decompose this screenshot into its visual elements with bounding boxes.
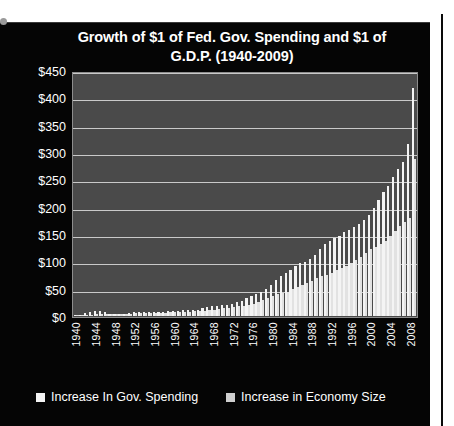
x-axis-tick-label: 1960 xyxy=(169,322,181,347)
y-axis-tick-label: $300 xyxy=(0,147,66,161)
legend-label: Increase in Economy Size xyxy=(241,390,386,404)
x-axis-tick-label: 1964 xyxy=(188,322,200,347)
plot-wrapper xyxy=(72,72,418,318)
y-axis-tick-label: $250 xyxy=(0,174,66,188)
corner-marker-icon xyxy=(0,18,7,25)
x-axis-tick-label: 1992 xyxy=(326,322,338,347)
x-axis-tick-label: 1988 xyxy=(306,322,318,347)
chart-legend: Increase In Gov. SpendingIncrease in Eco… xyxy=(36,390,416,404)
x-axis-tick-label: 1996 xyxy=(346,322,358,347)
y-axis-tick-label: $100 xyxy=(0,256,66,270)
legend-swatch-icon xyxy=(36,393,45,402)
x-axis-tick-label: 2008 xyxy=(405,322,417,347)
y-axis-tick-label: $450 xyxy=(0,65,66,79)
x-axis-tick-label: 1972 xyxy=(228,322,240,347)
bar-group xyxy=(411,74,416,316)
slide-top-hairline xyxy=(0,22,430,23)
bar-series-container xyxy=(74,74,416,316)
x-axis-tick-label: 1940 xyxy=(70,322,82,347)
x-axis-tick-label: 1984 xyxy=(287,322,299,347)
y-axis-tick-label: $50 xyxy=(0,284,66,298)
legend-item: Increase In Gov. Spending xyxy=(36,390,198,404)
chart-title-line-1: Growth of $1 of Fed. Gov. Spending and $… xyxy=(42,28,422,47)
y-axis: $450$400$350$300$250$200$150$100$50$0 xyxy=(0,72,66,318)
y-axis-tick-label: $350 xyxy=(0,120,66,134)
x-axis: 1940194419481952195619601964196819721976… xyxy=(73,322,417,370)
chart-title: Growth of $1 of Fed. Gov. Spending and $… xyxy=(42,28,422,66)
x-axis-tick-label: 1976 xyxy=(247,322,259,347)
plot-area xyxy=(72,72,418,318)
x-axis-tick-label: 1956 xyxy=(149,322,161,347)
legend-item: Increase in Economy Size xyxy=(226,390,386,404)
legend-swatch-icon xyxy=(226,393,235,402)
y-axis-tick-label: $150 xyxy=(0,229,66,243)
chart-title-line-2: G.D.P. (1940-2009) xyxy=(42,47,422,66)
x-axis-tick-label: 2000 xyxy=(365,322,377,347)
x-axis-tick-label: 1944 xyxy=(90,322,102,347)
y-axis-tick-label: $400 xyxy=(0,92,66,106)
x-axis-tick-label: 1948 xyxy=(110,322,122,347)
screenshot-root: Growth of $1 of Fed. Gov. Spending and $… xyxy=(0,0,454,426)
legend-label: Increase In Gov. Spending xyxy=(51,390,198,404)
bar-economy-size xyxy=(414,159,416,316)
x-axis-tick-label: 2004 xyxy=(385,322,397,347)
y-axis-tick-label: $0 xyxy=(0,311,66,325)
right-rule-divider xyxy=(441,14,443,426)
x-axis-tick-label: 1968 xyxy=(208,322,220,347)
x-axis-tick-label: 1952 xyxy=(129,322,141,347)
slide-panel: Growth of $1 of Fed. Gov. Spending and $… xyxy=(0,22,430,426)
x-axis-tick-label: 1980 xyxy=(267,322,279,347)
y-axis-tick-label: $200 xyxy=(0,202,66,216)
